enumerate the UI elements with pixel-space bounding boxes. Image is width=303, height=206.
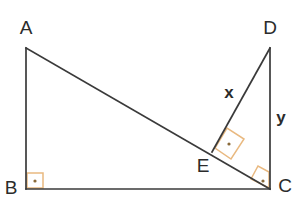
vertex-label-e: E bbox=[197, 155, 210, 176]
right-angle-dot-b bbox=[33, 179, 36, 182]
right-angle-dot-c bbox=[261, 179, 264, 182]
right-angle-mark-c bbox=[251, 166, 269, 188]
geometry-canvas: A B C D E x y bbox=[0, 0, 303, 206]
segment-ac bbox=[26, 48, 270, 189]
vertex-label-a: A bbox=[20, 17, 33, 38]
vertex-label-c: C bbox=[278, 175, 292, 196]
side-label-x: x bbox=[224, 83, 234, 102]
vertex-label-b: B bbox=[5, 177, 18, 198]
right-angle-dot-e bbox=[227, 142, 230, 145]
geometry-figure: A B C D E x y bbox=[0, 0, 303, 206]
side-label-y: y bbox=[276, 108, 286, 127]
vertex-label-d: D bbox=[263, 17, 277, 38]
